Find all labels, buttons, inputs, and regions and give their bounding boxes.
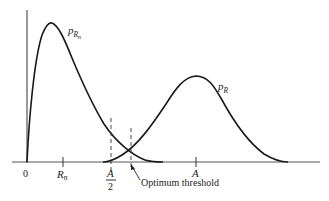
optimum-threshold-label: Optimum threshold [141,177,219,188]
annotation-arrow [133,168,140,180]
arrow-head-icon [131,164,135,170]
noise-pdf-curve [27,23,163,162]
noise-pdf-label: pRn [67,24,81,40]
tick-label-a-half-denominator: 2 [108,181,113,192]
tick-label-rn: Rn [56,168,68,182]
tick-label-origin: 0 [23,168,28,179]
threshold-diagram: pRn pR 0 Rn A 2 A Optimum threshold [0,0,329,201]
tick-label-a-half-numerator: A [106,167,114,179]
signal-pdf-label: pR [217,80,229,95]
